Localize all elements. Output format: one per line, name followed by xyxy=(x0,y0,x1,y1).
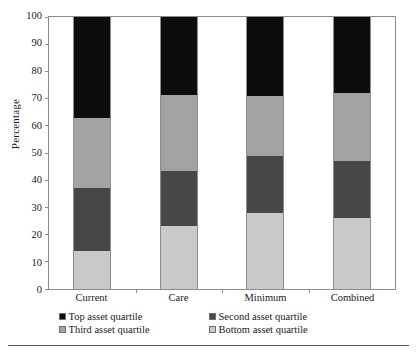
chart-legend: Top asset quartileSecond asset quartileT… xyxy=(0,311,417,335)
stacked-bar[interactable] xyxy=(333,17,371,289)
y-axis-tick-mark xyxy=(45,234,49,235)
y-axis-tick-mark xyxy=(45,17,49,18)
y-axis-tick-mark xyxy=(45,98,49,99)
x-axis-tick-label: Combined xyxy=(309,292,396,303)
y-axis-tick-mark xyxy=(45,44,49,45)
y-axis-tick-label: 10 xyxy=(32,258,43,268)
legend-item[interactable]: Bottom asset quartile xyxy=(209,324,359,335)
stacked-bar[interactable] xyxy=(160,17,198,289)
x-axis-tick-label: Current xyxy=(48,292,135,303)
y-axis-tick-mark xyxy=(45,261,49,262)
bar-segment[interactable] xyxy=(247,156,283,213)
bar-segment[interactable] xyxy=(334,161,370,218)
y-axis-tick-mark xyxy=(45,71,49,72)
legend-row: Top asset quartileSecond asset quartile xyxy=(59,311,359,322)
legend-row: Third asset quartileBottom asset quartil… xyxy=(59,324,359,335)
legend-item-label: Third asset quartile xyxy=(69,324,150,335)
legend-swatch-icon xyxy=(59,326,66,333)
bar-segment[interactable] xyxy=(247,213,283,289)
bars-layer xyxy=(49,17,395,289)
bar-segment[interactable] xyxy=(161,226,197,289)
bar-segment[interactable] xyxy=(161,95,197,171)
y-axis-tick-label: 60 xyxy=(32,121,43,131)
y-axis-tick-label: 90 xyxy=(32,38,43,48)
bar-segment[interactable] xyxy=(74,118,110,189)
y-axis-tick-label: 70 xyxy=(32,93,43,103)
legend-item[interactable]: Second asset quartile xyxy=(209,311,359,322)
legend-swatch-icon xyxy=(209,313,216,320)
y-axis-tick-label: 40 xyxy=(32,175,43,185)
bar-slot-current xyxy=(49,17,136,289)
legend-swatch-icon xyxy=(209,326,216,333)
bar-slot-care xyxy=(136,17,223,289)
x-axis-tick-labels: CurrentCareMinimumCombined xyxy=(48,292,396,303)
legend-item-label: Second asset quartile xyxy=(219,311,308,322)
stacked-bar-chart-figure: Percentage 0102030405060708090100 Curren… xyxy=(0,0,417,360)
y-axis-tick-label: 50 xyxy=(32,148,43,158)
y-axis-tick-mark xyxy=(45,289,49,290)
footer-divider xyxy=(8,345,409,346)
bar-segment[interactable] xyxy=(334,93,370,161)
legend-item[interactable]: Third asset quartile xyxy=(59,324,209,335)
y-axis-tick-mark xyxy=(45,153,49,154)
plot-frame xyxy=(48,16,396,290)
bar-segment[interactable] xyxy=(247,17,283,96)
y-axis-tick-label: 80 xyxy=(32,66,43,76)
x-axis-tick-label: Care xyxy=(135,292,222,303)
y-axis-tick-mark xyxy=(45,207,49,208)
x-axis-tick-label: Minimum xyxy=(222,292,309,303)
stacked-bar[interactable] xyxy=(246,17,284,289)
bar-segment[interactable] xyxy=(74,188,110,251)
bar-segment[interactable] xyxy=(334,218,370,289)
y-axis-tick-label: 30 xyxy=(32,203,43,213)
bar-segment[interactable] xyxy=(334,17,370,93)
bar-segment[interactable] xyxy=(74,17,110,118)
legend-item-label: Top asset quartile xyxy=(69,311,143,322)
legend-item[interactable]: Top asset quartile xyxy=(59,311,209,322)
legend-swatch-icon xyxy=(59,313,66,320)
y-axis-tick-label: 0 xyxy=(37,285,42,295)
legend-item-label: Bottom asset quartile xyxy=(219,324,308,335)
y-axis-tick-mark xyxy=(45,125,49,126)
bar-segment[interactable] xyxy=(74,251,110,289)
y-axis-tick-label: 20 xyxy=(32,230,43,240)
y-axis-tick-mark xyxy=(45,180,49,181)
bar-segment[interactable] xyxy=(161,171,197,227)
plot-area: Percentage 0102030405060708090100 Curren… xyxy=(0,0,417,300)
y-axis-tick-labels: 0102030405060708090100 xyxy=(14,16,42,290)
stacked-bar[interactable] xyxy=(73,17,111,289)
y-axis-tick-label: 100 xyxy=(26,11,42,21)
bar-segment[interactable] xyxy=(247,96,283,156)
bar-slot-minimum xyxy=(222,17,309,289)
bar-segment[interactable] xyxy=(161,17,197,95)
bar-slot-combined xyxy=(309,17,396,289)
